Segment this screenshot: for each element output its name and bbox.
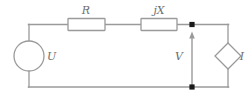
voltage-arrow-icon (189, 32, 195, 87)
schematic-canvas: U R jX V I (0, 0, 248, 102)
node-dot-bottom-right (189, 84, 194, 89)
voltage-source-symbol (14, 41, 44, 71)
label-source-current: I (239, 50, 245, 63)
label-source-voltage: U (47, 50, 57, 63)
label-terminal-voltage: V (175, 50, 184, 63)
current-source-symbol (215, 43, 241, 69)
circuit-diagram: U R jX V I (0, 0, 248, 102)
resistor-symbol (68, 19, 105, 31)
reactance-symbol (141, 19, 177, 31)
label-reactance: jX (150, 4, 165, 17)
node-dot-top-right (189, 22, 194, 27)
wire-network (28, 25, 228, 88)
label-resistance: R (81, 4, 90, 17)
